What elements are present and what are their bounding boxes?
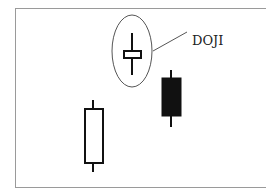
bullish-candle xyxy=(85,100,103,172)
doji-leader-line xyxy=(153,32,187,51)
candlestick-diagram: DOJI xyxy=(0,0,266,192)
doji-candle xyxy=(124,33,141,75)
doji-label: DOJI xyxy=(192,33,223,48)
bearish-candle xyxy=(162,70,181,127)
